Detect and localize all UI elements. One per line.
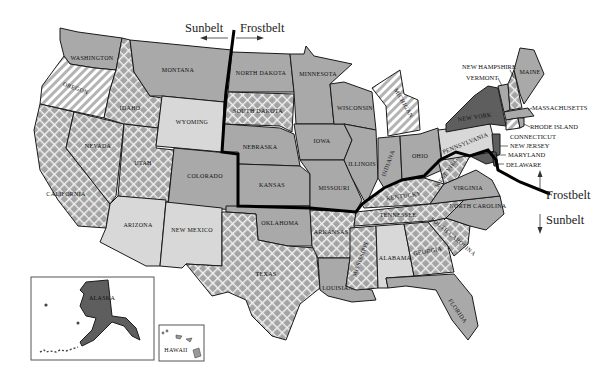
state-michigan: MICHIGAN — [372, 70, 420, 136]
svg-text:WASHINGTON: WASHINGTON — [71, 55, 114, 61]
svg-text:RHODE ISLAND: RHODE ISLAND — [530, 123, 578, 130]
svg-text:CONNECTICUT: CONNECTICUT — [510, 133, 556, 140]
svg-text:OHIO: OHIO — [412, 153, 429, 159]
svg-text:TEXAS: TEXAS — [256, 271, 277, 277]
svg-text:ALASKA: ALASKA — [89, 295, 116, 301]
state-colorado: COLORADO — [168, 148, 238, 210]
svg-text:ALABAMA: ALABAMA — [379, 255, 412, 261]
svg-text:VERMONT: VERMONT — [466, 74, 498, 81]
state-kansas: KANSAS — [238, 164, 310, 206]
arrow-right-icon — [257, 36, 264, 41]
svg-text:MISSOURI: MISSOURI — [318, 185, 349, 191]
state-iowa: IOWA — [294, 124, 352, 160]
svg-text:MASSACHUSETTS: MASSACHUSETTS — [532, 104, 588, 111]
svg-text:NEBRASKA: NEBRASKA — [243, 144, 278, 150]
svg-text:Frostbelt: Frostbelt — [546, 188, 591, 202]
us-map: WASHINGTON OREGON CALIFORNIA NEVADA IDAH… — [0, 0, 614, 378]
svg-text:ILLINOIS: ILLINOIS — [348, 161, 376, 167]
arrow-down-icon — [538, 227, 543, 234]
svg-text:OKLAHOMA: OKLAHOMA — [261, 220, 299, 226]
svg-text:Frostbelt: Frostbelt — [240, 21, 285, 35]
svg-text:SOUTH DAKOTA: SOUTH DAKOTA — [233, 108, 283, 114]
svg-text:Sunbelt: Sunbelt — [185, 21, 224, 35]
svg-text:VIRGINIA: VIRGINIA — [453, 185, 483, 191]
svg-text:COLORADO: COLORADO — [187, 173, 223, 179]
state-ohio: OHIO — [400, 128, 442, 180]
svg-text:NORTH CAROLINA: NORTH CAROLINA — [449, 203, 506, 209]
svg-text:NEW HAMPSHIRE: NEW HAMPSHIRE — [462, 63, 516, 70]
legend-right: Frostbelt Sunbelt — [538, 170, 591, 234]
svg-text:Sunbelt: Sunbelt — [546, 213, 585, 227]
svg-text:NEW MEXICO: NEW MEXICO — [171, 227, 213, 233]
state-mississippi: MISSISSIPPI — [346, 226, 378, 290]
svg-text:WISCONSIN: WISCONSIN — [337, 105, 373, 111]
state-new-mexico: NEW MEXICO — [160, 202, 222, 268]
state-wisconsin: WISCONSIN — [330, 82, 376, 130]
svg-text:MAINE: MAINE — [519, 69, 540, 75]
svg-text:ARKANSAS: ARKANSAS — [314, 229, 349, 235]
svg-text:ARIZONA: ARIZONA — [123, 222, 152, 228]
svg-text:MINNESOTA: MINNESOTA — [299, 71, 337, 77]
svg-text:NEVADA: NEVADA — [85, 143, 112, 149]
svg-text:HAWAII: HAWAII — [164, 347, 187, 353]
state-florida: FLORIDA — [386, 274, 478, 340]
svg-text:IOWA: IOWA — [314, 138, 331, 144]
state-arizona: ARIZONA — [100, 196, 166, 266]
svg-text:IDAHO: IDAHO — [120, 105, 141, 111]
state-wyoming: WYOMING — [156, 96, 224, 152]
svg-text:KANSAS: KANSAS — [259, 182, 285, 188]
svg-text:NORTH DAKOTA: NORTH DAKOTA — [236, 70, 287, 76]
state-arkansas: ARKANSAS — [310, 210, 356, 258]
svg-text:WYOMING: WYOMING — [176, 119, 209, 125]
arrow-left-icon — [200, 36, 207, 41]
inset-hawaii: HAWAII — [159, 325, 204, 361]
svg-text:CALIFORNIA: CALIFORNIA — [46, 191, 86, 197]
svg-text:NEW JERSEY: NEW JERSEY — [510, 142, 550, 149]
svg-text:MARYLAND: MARYLAND — [508, 151, 546, 158]
svg-text:UTAH: UTAH — [134, 160, 152, 166]
state-new-york: NEW YORK — [446, 86, 506, 132]
inset-alaska: ALASKA — [31, 277, 154, 360]
svg-text:DELAWARE: DELAWARE — [506, 161, 541, 168]
svg-text:TENNESSEE: TENNESSEE — [380, 212, 416, 218]
state-north-dakota: NORTH DAKOTA — [228, 52, 294, 92]
svg-text:MONTANA: MONTANA — [162, 67, 195, 73]
arrow-up-icon — [538, 170, 543, 177]
